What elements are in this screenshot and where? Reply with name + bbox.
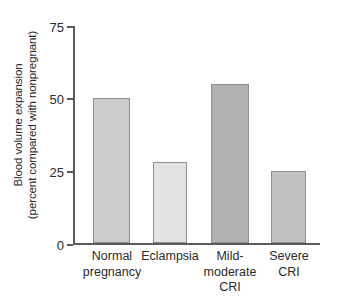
y-tick-label-0: 0 <box>57 238 64 253</box>
x-axis-line <box>73 243 320 245</box>
bar-severe-cri <box>271 171 306 243</box>
x-label-severe-cri-line-2: CRI <box>244 265 334 281</box>
bar-eclampsia <box>153 162 187 243</box>
y-tick-mark-50 <box>67 98 73 100</box>
y-tick-label-50: 50 <box>50 92 64 107</box>
x-label-severe-cri: Severe CRI <box>244 249 334 280</box>
y-tick-mark-25 <box>67 171 73 173</box>
y-axis-title-line-1: Blood volume expansion <box>11 63 25 186</box>
y-axis-title-line-2: (percent compared with nonpregnant) <box>25 31 39 219</box>
y-tick-label-75: 75 <box>50 20 64 35</box>
bar-normal-pregnancy <box>93 98 130 243</box>
y-axis-title: Blood volume expansion (percent compared… <box>4 0 46 250</box>
x-axis-category-labels: Normal pregnancy Eclampsia Mild- moderat… <box>73 249 320 299</box>
bar-mild-moderate-cri <box>211 84 249 243</box>
y-tick-mark-0 <box>67 244 73 246</box>
y-tick-label-25: 25 <box>50 165 64 180</box>
x-label-severe-cri-line-1: Severe <box>244 249 334 265</box>
x-label-mild-moderate-cri-line-3: CRI <box>185 280 275 296</box>
plot-area: 0 25 50 75 <box>73 26 320 245</box>
bar-chart: Blood volume expansion (percent compared… <box>0 0 340 300</box>
y-axis-line <box>73 26 75 245</box>
x-label-normal-pregnancy-line-2: pregnancy <box>67 265 157 281</box>
y-tick-mark-75 <box>67 26 73 28</box>
